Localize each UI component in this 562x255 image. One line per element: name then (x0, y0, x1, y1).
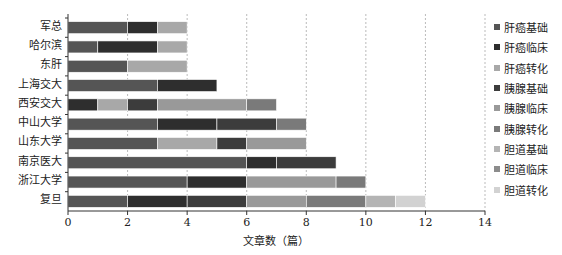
bar-segment (157, 118, 217, 130)
bar-segment (157, 137, 217, 149)
legend-label: 肝癌基础 (504, 19, 548, 35)
legend-item: 胆道转化 (494, 179, 562, 199)
bar-segment (277, 157, 337, 169)
category-label: 东肝 (40, 59, 62, 71)
x-tick-label: 6 (232, 216, 262, 229)
legend-item: 胰腺临床 (494, 98, 562, 118)
category-label: 南京医大 (18, 156, 62, 168)
bar-segment (157, 41, 187, 53)
legend: 肝癌基础肝癌临床肝癌转化胰腺基础胰腺临床胰腺转化胆道基础胆道临床胆道转化 (494, 17, 562, 200)
bar-segment (336, 176, 366, 188)
legend-label: 胆道临床 (504, 161, 548, 177)
bar-segment (247, 176, 336, 188)
x-tick-label: 8 (291, 216, 321, 229)
legend-swatch-icon (494, 105, 500, 111)
legend-label: 胆道基础 (504, 141, 548, 157)
bar-segment (247, 195, 307, 207)
bar-segment (68, 99, 98, 111)
category-label: 哈尔滨 (29, 40, 62, 52)
x-tick-label: 14 (470, 216, 500, 229)
legend-item: 胰腺转化 (494, 118, 562, 138)
bar-segment (247, 99, 277, 111)
bar-segment (98, 99, 128, 111)
bar-segment (277, 118, 307, 130)
bar-segment (68, 195, 128, 207)
bar-segment (217, 137, 247, 149)
bar-segment (187, 176, 247, 188)
bar-segment (187, 195, 247, 207)
bar-segment (68, 60, 128, 72)
x-tick-label: 0 (53, 216, 83, 229)
bar-segment (247, 157, 277, 169)
bar-segment (68, 41, 98, 53)
x-tick-label: 4 (172, 216, 202, 229)
x-tick-label: 2 (113, 216, 143, 229)
bar-segment (157, 80, 217, 92)
x-tick-label: 10 (351, 216, 381, 229)
x-axis-title: 文章数（篇） (226, 232, 326, 248)
bar-segment (68, 118, 157, 130)
legend-item: 肝癌基础 (494, 17, 562, 37)
legend-item: 肝癌临床 (494, 37, 562, 57)
bar-segment (128, 22, 158, 34)
legend-swatch-icon (494, 24, 500, 30)
legend-label: 肝癌转化 (504, 60, 548, 76)
bar-segment (128, 60, 188, 72)
bar-segment (157, 99, 246, 111)
category-label: 浙江大学 (18, 175, 62, 187)
legend-label: 胰腺转化 (504, 121, 548, 137)
bar-segment (366, 195, 396, 207)
legend-label: 胰腺基础 (504, 80, 548, 96)
bar-segment (68, 137, 157, 149)
category-label: 西安交大 (18, 98, 62, 110)
legend-item: 胰腺基础 (494, 78, 562, 98)
legend-swatch-icon (494, 85, 500, 91)
bar-segment (68, 22, 128, 34)
bar-segment (306, 195, 366, 207)
bar-segment (68, 176, 187, 188)
legend-swatch-icon (494, 146, 500, 152)
legend-item: 胆道基础 (494, 139, 562, 159)
legend-swatch-icon (494, 187, 500, 193)
category-label: 复旦 (40, 194, 62, 206)
legend-label: 胆道转化 (504, 182, 548, 198)
category-label: 军总 (40, 21, 62, 33)
legend-item: 肝癌转化 (494, 58, 562, 78)
category-label: 上海交大 (18, 79, 62, 91)
category-label: 山东大学 (18, 136, 62, 148)
legend-swatch-icon (494, 126, 500, 132)
bar-segment (98, 41, 158, 53)
category-label: 中山大学 (18, 117, 62, 129)
legend-swatch-icon (494, 44, 500, 50)
legend-swatch-icon (494, 166, 500, 172)
bar-segment (68, 80, 157, 92)
bar-segment (128, 195, 188, 207)
bar-segment (128, 99, 158, 111)
bar-segment (157, 22, 187, 34)
bar-segment (247, 137, 307, 149)
legend-label: 胰腺临床 (504, 100, 548, 116)
legend-swatch-icon (494, 65, 500, 71)
bar-segment (396, 195, 426, 207)
legend-item: 胆道临床 (494, 159, 562, 179)
legend-label: 肝癌临床 (504, 39, 548, 55)
x-tick-label: 12 (410, 216, 440, 229)
bar-segment (217, 118, 277, 130)
bar-segment (68, 157, 247, 169)
stacked-bar-chart: 军总哈尔滨东肝上海交大西安交大中山大学山东大学南京医大浙江大学复旦 024681… (0, 0, 562, 255)
